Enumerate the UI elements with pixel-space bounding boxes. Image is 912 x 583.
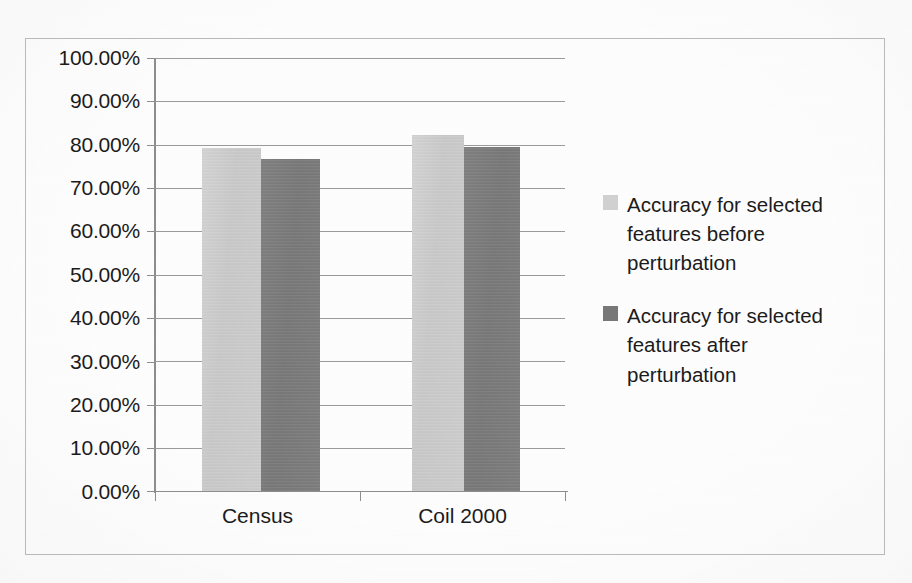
- plot-area: [155, 58, 565, 491]
- gridline-100: [155, 58, 565, 59]
- bar-census-after[interactable]: [261, 159, 320, 491]
- y-axis-label-70: 70.00%: [22, 177, 140, 198]
- chart-legend: Accuracy for selected features before pe…: [603, 190, 873, 413]
- bar-coil2000-after[interactable]: [464, 147, 520, 491]
- y-axis-label-40: 40.00%: [22, 307, 140, 328]
- x-axis-tick-start: [155, 491, 156, 501]
- legend-entry-after[interactable]: Accuracy for selected features after per…: [603, 301, 873, 388]
- x-axis-label-census: Census: [155, 505, 360, 526]
- chart-figure: 100.00% 90.00% 80.00% 70.00% 60.00% 50.0…: [0, 0, 912, 583]
- x-axis-tick-end: [565, 491, 566, 501]
- legend-entry-before[interactable]: Accuracy for selected features before pe…: [603, 190, 873, 277]
- legend-label-after: Accuracy for selected features after per…: [627, 301, 845, 388]
- y-axis-label-30: 30.00%: [22, 351, 140, 372]
- x-axis-label-coil2000: Coil 2000: [360, 505, 565, 526]
- legend-swatch-after-icon: [603, 306, 618, 321]
- legend-label-before: Accuracy for selected features before pe…: [627, 190, 845, 277]
- legend-swatch-before-icon: [603, 195, 618, 210]
- y-axis-label-0: 0.00%: [22, 481, 140, 502]
- y-axis-label-80: 80.00%: [22, 134, 140, 155]
- y-axis-label-90: 90.00%: [22, 90, 140, 111]
- gridline-80: [155, 145, 565, 146]
- y-axis-label-60: 60.00%: [22, 220, 140, 241]
- bar-census-before[interactable]: [202, 148, 261, 491]
- bar-coil2000-before[interactable]: [412, 135, 464, 491]
- y-axis-label-50: 50.00%: [22, 264, 140, 285]
- gridline-90: [155, 101, 565, 102]
- y-axis-labels: 100.00% 90.00% 80.00% 70.00% 60.00% 50.0…: [14, 0, 140, 583]
- y-axis-label-20: 20.00%: [22, 394, 140, 415]
- y-axis-label-10: 10.00%: [22, 437, 140, 458]
- x-axis-tick-middle: [360, 491, 361, 501]
- y-axis-label-100: 100.00%: [22, 47, 140, 68]
